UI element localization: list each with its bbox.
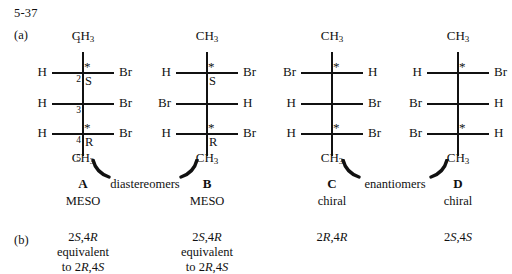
substituent-left-c2: H	[38, 64, 47, 80]
configuration-descriptor-c2: S	[209, 75, 216, 88]
bond-line-c2	[176, 72, 238, 74]
substituent-left-c2: Br	[283, 64, 296, 80]
fischer-projection-b: CH3 CH3 H Br Br H H Br * * S R	[137, 30, 277, 170]
fischer-projection-a: CH3 CH3 H Br H Br H Br * * S R 1 2 3 4 5	[13, 30, 153, 170]
structure-kind-c: chiral	[318, 194, 346, 209]
relationship-brace-diastereomers	[89, 159, 201, 179]
stereocenter-asterisk-c4: *	[84, 121, 91, 134]
relationship-label-diastereomers: diastereomers	[110, 177, 179, 192]
configuration-descriptor-c2: S	[85, 75, 92, 88]
bottom-methyl-subscript: 3	[214, 156, 219, 166]
stereocenter-asterisk-c2: *	[84, 60, 91, 73]
bond-line-c4	[176, 133, 238, 135]
stereocenter-asterisk-c2: *	[208, 60, 215, 73]
config-line: to 2R,4S	[181, 260, 233, 274]
fischer-projection-d: CH3 CH3 H Br Br H Br H * *	[388, 30, 512, 170]
substituent-right-c4: H	[494, 125, 503, 141]
substituent-right-c2: Br	[119, 64, 132, 80]
top-methyl-subscript: 3	[339, 34, 344, 44]
part-b-label: (b)	[14, 233, 29, 248]
bottom-methyl-subscript: 3	[465, 156, 470, 166]
top-methyl-group: CH3	[447, 28, 470, 44]
substituent-left-c4: H	[38, 125, 47, 141]
bond-line-c3	[52, 103, 114, 105]
carbon-number-5: 5	[76, 154, 81, 164]
config-line: 2S,4S	[444, 230, 472, 245]
problem-number: 5-37	[14, 6, 38, 21]
configuration-text-c: 2R,4R	[317, 230, 348, 245]
substituent-left-c3: H	[287, 95, 296, 111]
bond-line-c4	[427, 133, 489, 135]
configuration-text-b: 2S,4R equivalent to 2R,4S	[181, 230, 233, 274]
top-methyl-text: CH	[321, 28, 339, 43]
config-line: equivalent	[57, 245, 109, 260]
config-line: equivalent	[181, 245, 233, 260]
relationship-label-enantiomers: enantiomers	[364, 177, 425, 192]
substituent-right-c2: H	[368, 64, 377, 80]
bottom-methyl-text: CH	[321, 150, 339, 165]
configuration-descriptor-c4: R	[85, 136, 93, 149]
config-line: 2R,4R	[317, 230, 348, 245]
substituent-right-c2: Br	[494, 64, 507, 80]
bond-line-c4	[301, 133, 363, 135]
structure-letter-b: B	[203, 176, 212, 192]
stereocenter-asterisk-c2: *	[333, 60, 340, 73]
substituent-left-c4: H	[162, 125, 171, 141]
bond-line-c4	[52, 133, 114, 135]
substituent-left-c3: Br	[158, 95, 171, 111]
bond-line-c3	[427, 103, 489, 105]
bond-line-c3	[301, 103, 363, 105]
stereocenter-asterisk-c4: *	[459, 121, 466, 134]
structure-letter-d: D	[453, 176, 462, 192]
bond-line-c2	[52, 72, 114, 74]
structure-kind-d: chiral	[444, 194, 472, 209]
bond-line-c2	[301, 72, 363, 74]
stereocenter-asterisk-c4: *	[333, 121, 340, 134]
bond-line-c2	[427, 72, 489, 74]
substituent-left-c2: H	[413, 64, 422, 80]
structure-kind-a: MESO	[66, 194, 101, 209]
top-methyl-group: CH3	[196, 28, 219, 44]
relationship-brace-enantiomers	[339, 159, 451, 179]
substituent-right-c3: Br	[368, 95, 381, 111]
top-methyl-subscript: 3	[465, 34, 470, 44]
config-line: to 2R,4S	[57, 260, 109, 274]
substituent-right-c3: H	[243, 95, 252, 111]
config-line: 2S,4R	[57, 230, 109, 245]
carbon-number-2: 2	[76, 75, 81, 85]
structure-letter-a: A	[78, 176, 87, 192]
carbon-number-4: 4	[76, 136, 81, 146]
configuration-text-a: 2S,4R equivalent to 2R,4S	[57, 230, 109, 274]
stereocenter-asterisk-c4: *	[208, 121, 215, 134]
configuration-descriptor-c4: R	[209, 136, 217, 149]
structure-kind-b: MESO	[190, 194, 225, 209]
fischer-projection-c: CH3 CH3 Br H H Br H Br * *	[262, 30, 402, 170]
stereocenter-asterisk-c2: *	[459, 60, 466, 73]
config-line: 2S,4R	[181, 230, 233, 245]
substituent-right-c4: Br	[368, 125, 381, 141]
substituent-left-c2: H	[162, 64, 171, 80]
substituent-right-c3: H	[494, 95, 503, 111]
substituent-right-c2: Br	[243, 64, 256, 80]
top-methyl-text: CH	[196, 28, 214, 43]
structure-letter-c: C	[327, 176, 336, 192]
carbon-number-1: 1	[76, 36, 81, 46]
substituent-left-c3: H	[38, 95, 47, 111]
carbon-number-3: 3	[76, 106, 81, 116]
bond-line-c3	[176, 103, 238, 105]
top-methyl-text: CH	[447, 28, 465, 43]
substituent-left-c4: H	[287, 125, 296, 141]
configuration-text-d: 2S,4S	[444, 230, 472, 245]
top-methyl-subscript: 3	[214, 34, 219, 44]
top-methyl-subscript: 3	[90, 34, 95, 44]
substituent-right-c4: Br	[243, 125, 256, 141]
substituent-right-c3: Br	[119, 95, 132, 111]
substituent-right-c4: Br	[119, 125, 132, 141]
top-methyl-group: CH3	[321, 28, 344, 44]
substituent-left-c3: Br	[409, 95, 422, 111]
substituent-left-c4: Br	[409, 125, 422, 141]
top-methyl-group: CH3	[72, 28, 95, 44]
